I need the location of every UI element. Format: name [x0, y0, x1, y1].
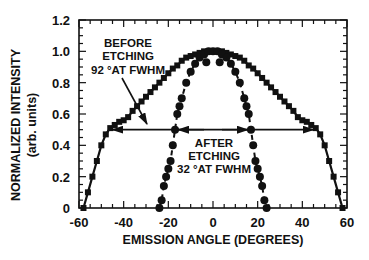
circle-marker	[167, 157, 175, 165]
circle-marker	[164, 165, 172, 173]
y-tick-label: 0.6	[52, 107, 70, 122]
square-marker	[94, 158, 100, 164]
x-tick-label: 60	[340, 215, 354, 230]
annotation-before-line3: 92 °AT FWHM	[91, 64, 165, 76]
y-tick-label: 1.2	[52, 13, 70, 28]
square-marker	[331, 174, 337, 180]
circle-marker	[176, 102, 184, 110]
x-tick-label: -40	[114, 215, 133, 230]
square-marker	[322, 142, 328, 148]
circle-marker	[240, 94, 248, 102]
square-marker	[103, 131, 109, 137]
y-tick-label: 0.4	[52, 138, 71, 153]
square-marker	[89, 174, 95, 180]
x-tick-label: 0	[209, 215, 216, 230]
circle-marker	[251, 157, 259, 165]
circle-marker	[216, 58, 224, 66]
emission-angle-chart: -60-40-20020406000.20.40.60.81.01.2 NORM…	[0, 0, 369, 260]
circle-marker	[158, 196, 166, 204]
square-marker	[326, 158, 332, 164]
circle-marker	[258, 182, 266, 190]
square-marker	[125, 114, 131, 120]
square-marker	[335, 189, 341, 195]
x-tick-label: -60	[70, 215, 89, 230]
circle-marker	[236, 79, 244, 87]
circle-marker	[256, 173, 264, 181]
circle-marker	[202, 58, 210, 66]
circle-marker	[231, 68, 239, 76]
square-marker	[98, 142, 104, 148]
y-axis-title: NORMALIZED INTENSITY	[9, 48, 23, 201]
y-tick-label: 0.8	[52, 76, 70, 91]
circle-marker	[160, 182, 168, 190]
circle-marker	[178, 94, 186, 102]
annotation-before-line1: BEFORE	[104, 37, 152, 49]
square-marker	[340, 205, 346, 211]
square-marker	[80, 205, 86, 211]
y-axis-subtitle: (arb. units)	[25, 93, 39, 158]
circle-marker	[173, 110, 181, 118]
circle-marker	[260, 196, 268, 204]
square-marker	[317, 131, 323, 137]
circle-marker	[245, 110, 253, 118]
circle-marker	[227, 60, 235, 68]
circle-marker	[249, 141, 257, 149]
annotation-after-line2: ETCHING	[188, 150, 240, 162]
x-axis-title: EMISSION ANGLE (DEGREES)	[123, 233, 304, 247]
annotation-before-line2: ETCHING	[102, 50, 154, 62]
square-marker	[290, 108, 296, 114]
y-tick-label: 0	[63, 201, 70, 216]
x-tick-label: 20	[250, 215, 264, 230]
x-tick-label: 40	[295, 215, 309, 230]
x-tick-label: -20	[159, 215, 178, 230]
circle-marker	[187, 68, 195, 76]
y-tick-label: 0.2	[52, 170, 70, 185]
circle-marker	[169, 141, 177, 149]
circle-marker	[182, 79, 190, 87]
circle-marker	[162, 173, 170, 181]
circle-marker	[254, 165, 262, 173]
y-tick-label: 1.0	[52, 44, 70, 59]
circle-marker	[263, 204, 271, 212]
annotation-after-line1: AFTER	[195, 137, 234, 149]
circle-marker	[243, 102, 251, 110]
square-marker	[85, 189, 91, 195]
annotation-after-line3: 32 °AT FWHM	[177, 163, 251, 175]
circle-marker	[155, 204, 163, 212]
